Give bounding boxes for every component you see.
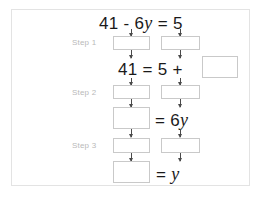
equation-line-4: = y: [156, 165, 180, 183]
step-label-3: Step 3: [72, 142, 96, 150]
arrow-step3-right-to-eq4: [180, 153, 181, 161]
equation-line-3: = 6y: [155, 111, 188, 129]
equation-4-variable: y: [171, 164, 179, 184]
blank-step1-left[interactable]: [113, 36, 150, 50]
equation-2-lhs: 41: [118, 60, 138, 79]
step-label-1: Step 1: [72, 39, 96, 47]
arrow-step2-left-to-eq3: [131, 99, 132, 107]
equation-1-equals: =: [158, 14, 168, 33]
blank-step3-left[interactable]: [113, 138, 150, 153]
equation-3-equals: =: [155, 111, 165, 130]
arrow-eq3-to-step3-left: [131, 129, 132, 137]
arrow-step2-right-to-eq3: [180, 99, 181, 107]
blank-step3-right[interactable]: [161, 138, 200, 153]
blank-line2-right[interactable]: [202, 56, 238, 78]
blank-line4-left[interactable]: [113, 161, 150, 183]
equation-2-plus: +: [173, 60, 183, 79]
step-label-2: Step 2: [72, 89, 96, 97]
equation-4-equals: =: [156, 165, 166, 184]
arrow-step1-left-to-eq2: [131, 50, 132, 58]
equation-3-coefficient: 6: [170, 111, 180, 130]
equation-line-1: 41 - 6y = 5: [99, 14, 183, 32]
blank-step2-right[interactable]: [161, 85, 200, 99]
equation-1-minus: -: [124, 14, 130, 33]
equation-2-equals: =: [143, 60, 153, 79]
equation-3-variable: y: [180, 110, 188, 130]
blank-line3-left[interactable]: [113, 107, 150, 129]
blank-step1-right[interactable]: [161, 36, 200, 50]
equation-1-rhs: 5: [173, 14, 183, 33]
equation-1-coefficient: 6: [135, 14, 145, 33]
arrow-step3-left-to-eq4: [131, 153, 132, 161]
equation-1-lhs: 41: [99, 14, 119, 33]
blank-step2-left[interactable]: [113, 85, 150, 99]
equation-steps-worksheet: 41 - 6y = 5 Step 1 41 = 5 + Step 2 = 6y …: [0, 0, 263, 200]
equation-line-2: 41 = 5 +: [118, 61, 183, 78]
arrow-eq1-to-step1-right: [180, 29, 181, 36]
arrow-eq2-to-step2-left: [131, 78, 132, 85]
arrow-eq3-to-step3-right: [180, 129, 181, 137]
arrow-eq2-to-step2-right: [180, 78, 181, 85]
equation-1-variable: y: [144, 13, 152, 33]
arrow-eq1-to-step1-left: [131, 29, 132, 36]
equation-2-rhs: 5: [158, 60, 168, 79]
arrow-step1-right-to-eq2: [180, 50, 181, 58]
